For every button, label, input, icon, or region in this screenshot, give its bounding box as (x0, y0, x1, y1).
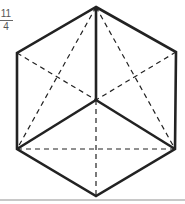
hexagon-diagram (0, 0, 185, 204)
bottom-divider (0, 199, 185, 201)
